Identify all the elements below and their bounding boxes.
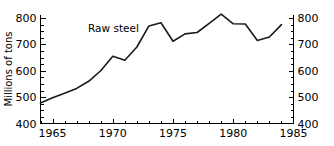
y-tick-label-left: 600 <box>16 65 37 78</box>
chart-container: 400500600700800 400500600700800 19651970… <box>0 0 334 146</box>
x-tick-label: 1970 <box>99 127 127 140</box>
x-tick-label: 1965 <box>39 127 67 140</box>
chart-background <box>0 0 334 146</box>
y-tick-label-left: 400 <box>16 118 37 131</box>
x-tick-label: 1980 <box>219 127 247 140</box>
y-axis-title: Millions of tons <box>3 32 14 107</box>
y-tick-label-left: 500 <box>16 91 37 104</box>
y-tick-label-right: 700 <box>298 38 319 51</box>
y-tick-label-left: 700 <box>16 38 37 51</box>
x-tick-label: 1975 <box>159 127 187 140</box>
y-tick-label-right: 600 <box>298 65 319 78</box>
x-tick-label: 1985 <box>280 127 308 140</box>
y-tick-label-right: 800 <box>298 12 319 25</box>
line-chart: 400500600700800 400500600700800 19651970… <box>0 0 334 146</box>
y-tick-label-left: 800 <box>16 12 37 25</box>
y-tick-label-right: 500 <box>298 91 319 104</box>
series-annotation-raw-steel: Raw steel <box>88 22 139 34</box>
